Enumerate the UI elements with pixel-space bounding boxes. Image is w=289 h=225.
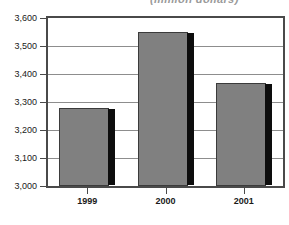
bar-shadow (187, 33, 194, 185)
x-axis-label-2001: 2001 (219, 196, 269, 206)
y-axis-tick-label: 3,200 (0, 126, 37, 135)
y-axis-tick-label: 3,100 (0, 154, 37, 163)
y-axis-tick-label: 3,000 (0, 182, 37, 191)
plot-area (46, 16, 285, 188)
bar-1999 (59, 108, 109, 186)
chart-title: (million dollars) (150, 0, 289, 5)
chart-title-clipped: (million dollars) (150, 0, 289, 5)
y-axis-tick-label: 3,300 (0, 98, 37, 107)
bar-shadow (265, 84, 272, 185)
y-axis-tick-label: 3,500 (0, 42, 37, 51)
y-axis-tick-label: 3,400 (0, 70, 37, 79)
plot-inner (48, 18, 283, 186)
bar-2001 (216, 83, 266, 186)
x-axis-label-2000: 2000 (141, 196, 191, 206)
x-axis-label-1999: 1999 (62, 196, 112, 206)
bar-shadow (108, 109, 115, 185)
x-axis-tick (166, 188, 167, 194)
x-axis-tick (244, 188, 245, 194)
y-axis-tick-label: 3,600 (0, 14, 37, 23)
bar-chart: (million dollars) 3,6003,5003,4003,3003,… (0, 0, 289, 225)
bar-2000 (138, 32, 188, 186)
x-axis-tick (87, 188, 88, 194)
